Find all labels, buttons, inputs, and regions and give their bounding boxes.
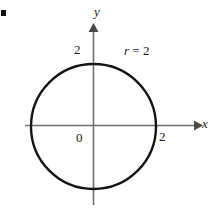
x-axis-tick-label-2: 2 <box>159 130 166 143</box>
math-figure: y x 2 2 0 r = 2 <box>0 0 214 215</box>
equation-operator: = <box>132 43 139 58</box>
equation-variable: r <box>124 43 129 58</box>
y-axis-tick-label-2: 2 <box>74 43 81 56</box>
y-axis-label: y <box>94 5 100 18</box>
x-axis-label: x <box>202 117 208 130</box>
axis-group <box>25 23 203 205</box>
equation-value: 2 <box>143 43 150 58</box>
curve-equation-label: r = 2 <box>124 44 149 57</box>
origin-label: 0 <box>76 131 83 144</box>
plot-canvas <box>0 0 214 215</box>
y-axis-arrowhead <box>89 23 99 32</box>
